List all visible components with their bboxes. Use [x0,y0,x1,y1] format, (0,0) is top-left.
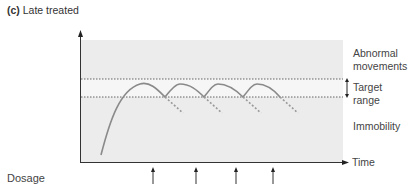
dose-arrow-1-icon [151,167,155,184]
dosage-label: Dosage [7,172,45,185]
dose-arrow-4-icon [271,167,275,184]
y-axis-arrowhead [78,30,83,37]
x-axis-arrowhead [342,160,349,165]
dosage-diagram [0,0,410,190]
dose-arrow-2-icon [194,167,198,184]
x-axis-label: Time [352,156,375,169]
dose-arrow-3-icon [234,167,238,184]
abnormal-label-line1: Abnormal [353,47,407,60]
immobility-label: Immobility [353,120,400,133]
target-range-label: Target range [353,81,410,107]
dosage-arrows [151,167,275,184]
abnormal-label-line2: movements [353,60,407,73]
abnormal-movements-label: Abnormal movements [353,47,407,73]
target-range-bracket [345,78,349,98]
